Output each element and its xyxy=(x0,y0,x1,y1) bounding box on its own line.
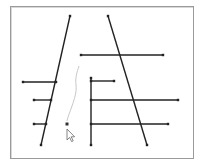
endpoint-handle[interactable] xyxy=(40,144,42,146)
endpoint-handle[interactable] xyxy=(90,77,92,79)
endpoint-handle[interactable] xyxy=(90,99,92,101)
endpoint-handle[interactable] xyxy=(22,81,24,83)
endpoint-handle[interactable] xyxy=(90,80,92,82)
mouse-cursor-icon xyxy=(67,129,75,142)
endpoint-handle[interactable] xyxy=(69,15,71,17)
endpoint-handle[interactable] xyxy=(45,123,47,125)
endpoint-handle[interactable] xyxy=(162,54,164,56)
drawing-layer[interactable] xyxy=(0,0,201,165)
endpoint-handle[interactable] xyxy=(113,80,115,82)
endpoint-handle[interactable] xyxy=(177,99,179,101)
endpoint-handle[interactable] xyxy=(90,144,92,146)
endpoint-handle[interactable] xyxy=(55,81,57,83)
pending-point-marker xyxy=(66,123,69,126)
endpoint-handle[interactable] xyxy=(146,144,148,146)
segment-left-slant[interactable] xyxy=(41,16,70,145)
endpoint-handle[interactable] xyxy=(50,99,52,101)
endpoint-handle[interactable] xyxy=(33,123,35,125)
endpoint-handle[interactable] xyxy=(80,54,82,56)
endpoint-handle[interactable] xyxy=(33,99,35,101)
endpoint-handle[interactable] xyxy=(90,123,92,125)
endpoint-handle[interactable] xyxy=(167,123,169,125)
endpoint-handle[interactable] xyxy=(107,15,109,17)
line-segments[interactable] xyxy=(22,15,179,146)
freehand-sketch-stroke xyxy=(67,66,79,121)
